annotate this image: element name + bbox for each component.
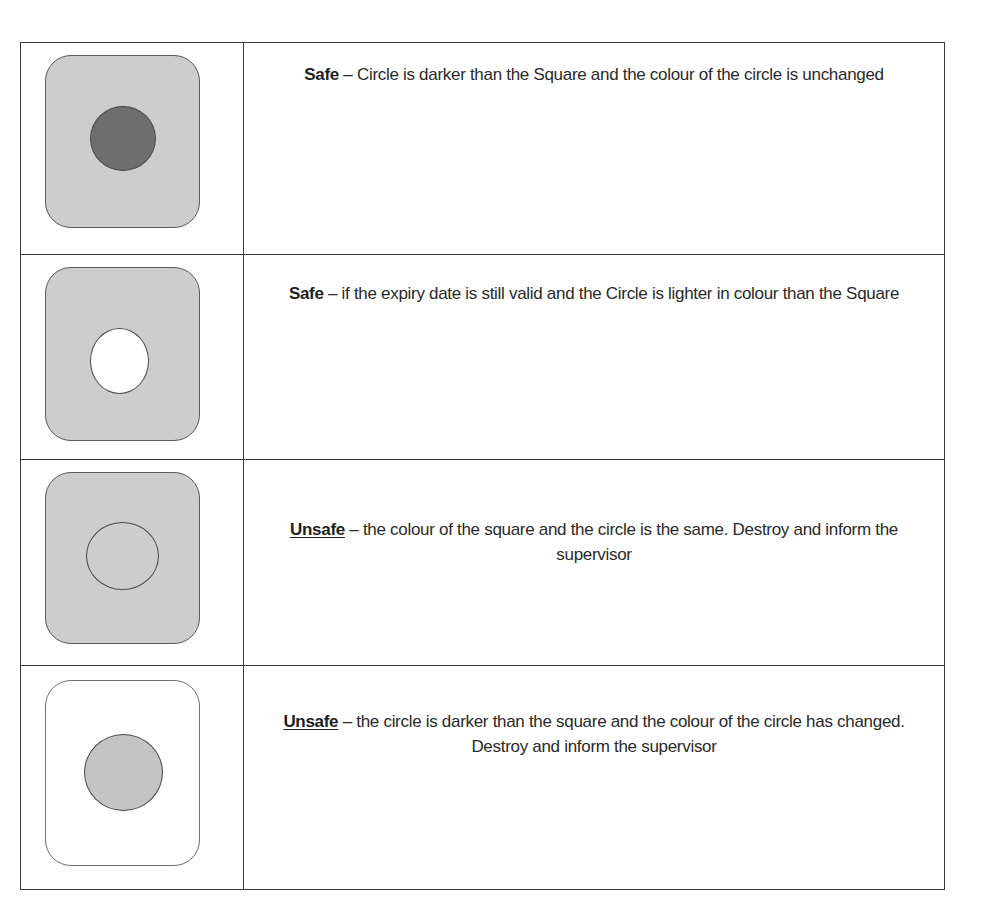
verdict-label: Safe	[304, 65, 339, 84]
rounded-square-dark-circle-icon	[45, 55, 200, 228]
description-cell: Safe – Circle is darker than the Square …	[244, 43, 945, 255]
rounded-square-same-circle-icon	[45, 472, 200, 644]
rounded-square-white-circle-icon	[45, 267, 200, 441]
verdict-label: Unsafe	[290, 520, 345, 539]
table-row: Unsafe – the colour of the square and th…	[21, 460, 945, 666]
description-cell: Unsafe – the circle is darker than the s…	[244, 666, 945, 890]
description-cell: Unsafe – the colour of the square and th…	[244, 460, 945, 666]
table-row: Safe – Circle is darker than the Square …	[21, 43, 945, 255]
grey-circle-icon	[84, 734, 163, 811]
description-body: – the colour of the square and the circl…	[345, 520, 898, 564]
table-row: Safe – if the expiry date is still valid…	[21, 255, 945, 460]
indicator-cell	[21, 43, 244, 255]
description-text: Unsafe – the colour of the square and th…	[244, 460, 944, 567]
indicator-cell	[21, 255, 244, 460]
description-text: Safe – Circle is darker than the Square …	[244, 43, 944, 87]
dark-circle-icon	[90, 106, 156, 171]
description-body: – if the expiry date is still valid and …	[324, 284, 900, 303]
verdict-label: Unsafe	[283, 712, 338, 731]
same-colour-circle-icon	[86, 522, 159, 590]
indicator-cell	[21, 460, 244, 666]
description-body: – the circle is darker than the square a…	[338, 712, 904, 756]
indicator-safety-table: Safe – Circle is darker than the Square …	[20, 42, 945, 890]
white-circle-icon	[90, 328, 149, 394]
indicator-cell	[21, 666, 244, 890]
description-cell: Safe – if the expiry date is still valid…	[244, 255, 945, 460]
description-text: Safe – if the expiry date is still valid…	[244, 255, 944, 306]
white-square-grey-circle-icon	[45, 680, 200, 866]
table-row: Unsafe – the circle is darker than the s…	[21, 666, 945, 890]
verdict-label: Safe	[289, 284, 324, 303]
description-body: – Circle is darker than the Square and t…	[339, 65, 884, 84]
description-text: Unsafe – the circle is darker than the s…	[244, 666, 944, 759]
